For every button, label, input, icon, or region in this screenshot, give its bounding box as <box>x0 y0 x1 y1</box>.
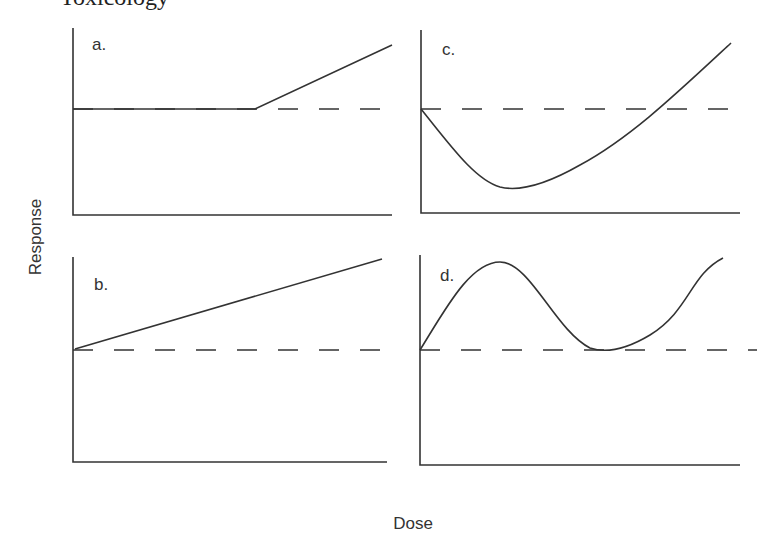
panel-a <box>73 28 392 215</box>
panel-c-label: c. <box>442 40 455 59</box>
panel-d-label: d. <box>440 266 454 285</box>
panel-b-axes <box>73 257 387 462</box>
panel-d-axes <box>420 255 740 465</box>
panel-b-curve <box>75 259 382 349</box>
y-axis-label: Response <box>26 199 46 276</box>
panel-a-axes <box>73 28 392 215</box>
panel-b-label: b. <box>94 275 108 294</box>
panel-b <box>73 257 387 462</box>
x-axis-label: Dose <box>393 514 433 534</box>
panel-d-curve <box>420 258 723 350</box>
panel-a-curve <box>73 45 392 109</box>
panel-d <box>420 255 757 465</box>
panel-c-curve <box>421 43 731 189</box>
panel-a-label: a. <box>92 35 106 54</box>
dose-response-figure: a. c. b. d. <box>0 0 773 548</box>
panel-c-axes <box>421 30 740 213</box>
panel-c <box>421 30 740 213</box>
